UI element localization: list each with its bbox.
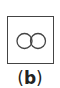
two-circles-icon: [8, 17, 52, 62]
figure-caption: (b): [0, 68, 60, 88]
caption-close-paren: ): [36, 68, 43, 88]
diagram-frame: [7, 16, 54, 64]
caption-label: b: [24, 68, 36, 88]
caption-open-paren: (: [17, 68, 24, 88]
